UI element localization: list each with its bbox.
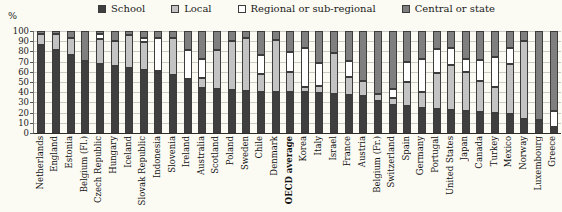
bar-united-states: [447, 31, 455, 133]
y-tick-label-50: 50: [1, 77, 29, 87]
segment-central: [462, 31, 470, 59]
bar-italy: [315, 31, 323, 133]
segment-central: [359, 31, 367, 81]
segment-local: [462, 72, 470, 111]
bar-portugal: [433, 31, 441, 133]
segment-school: [476, 112, 484, 133]
x-label-greece: Greece: [547, 136, 558, 167]
segment-local: [257, 74, 265, 92]
segment-school: [125, 68, 133, 133]
x-label-korea: Korea: [298, 136, 309, 161]
segment-local: [476, 81, 484, 112]
x-label-iceland: Iceland: [123, 136, 134, 168]
bar-australia: [198, 31, 206, 133]
bar-korea: [301, 31, 309, 133]
segment-regional: [315, 63, 323, 86]
segment-school: [184, 79, 192, 133]
x-label-italy: Italy: [313, 136, 324, 155]
bar-slovak-republic: [140, 31, 148, 133]
segment-local: [213, 50, 221, 89]
segment-school: [228, 90, 236, 133]
segment-local: [506, 64, 514, 114]
x-label-hungary: Hungary: [108, 136, 119, 174]
segment-local: [52, 34, 60, 50]
x-label-austria: Austria: [357, 136, 368, 167]
y-tick-label-60: 60: [1, 67, 29, 77]
legend-item-local: Local: [171, 3, 211, 14]
x-label-australia: Australia: [196, 136, 207, 175]
legend-item-central: Central or state: [402, 3, 495, 14]
segment-central: [257, 31, 265, 55]
segment-school: [345, 95, 353, 133]
bar-estonia: [67, 31, 75, 133]
y-tick-label-80: 80: [1, 46, 29, 56]
segment-central: [403, 31, 411, 62]
segment-school: [81, 61, 89, 133]
x-label-estonia: Estonia: [64, 136, 75, 168]
bar-belgium-fr: [374, 31, 382, 133]
bar-hungary: [111, 31, 119, 133]
segment-central: [315, 31, 323, 63]
x-label-canada: Canada: [474, 136, 485, 169]
bar-norway: [520, 31, 528, 133]
segment-school: [37, 45, 45, 133]
x-label-slovenia: Slovenia: [167, 136, 178, 173]
x-label-denmark: Denmark: [269, 136, 280, 176]
segment-local: [389, 98, 397, 105]
x-label-france: France: [342, 136, 353, 166]
segment-central: [198, 31, 206, 59]
segment-central: [433, 31, 441, 49]
segment-school: [67, 55, 75, 133]
segment-regional: [462, 59, 470, 72]
x-label-scotland: Scotland: [210, 136, 221, 174]
segment-regional: [550, 111, 558, 127]
segment-local: [111, 41, 119, 65]
x-label-spain: Spain: [401, 136, 412, 161]
legend-swatch-school: [98, 5, 106, 13]
segment-regional: [403, 62, 411, 82]
x-label-netherlands: Netherlands: [35, 136, 46, 190]
segment-regional: [345, 61, 353, 77]
legend-item-school: School: [98, 3, 145, 14]
bar-netherlands: [37, 31, 45, 133]
x-label-czech-republic: Czech Republic: [93, 136, 104, 203]
plot-area: [33, 31, 561, 134]
bar-spain: [403, 31, 411, 133]
segment-school: [491, 113, 499, 133]
y-tick-label-10: 10: [1, 118, 29, 128]
segment-central: [418, 31, 426, 59]
segment-central: [140, 31, 148, 38]
segment-central: [169, 31, 177, 38]
segment-school: [111, 66, 119, 133]
x-label-belgium-fl: Belgium (Fl.): [79, 136, 90, 192]
x-label-mexico: Mexico: [503, 136, 514, 167]
x-label-indonesia: Indonesia: [152, 136, 163, 178]
x-label-england: England: [49, 136, 60, 172]
bar-czech-republic: [96, 31, 104, 133]
segment-central: [491, 31, 499, 57]
segment-regional: [491, 57, 499, 88]
segment-central: [476, 31, 484, 60]
segment-regional: [418, 59, 426, 93]
bar-luxembourg: [535, 31, 543, 133]
bar-iceland: [125, 31, 133, 133]
segment-school: [96, 64, 104, 133]
x-label-portugal: Portugal: [430, 136, 441, 173]
y-tick-label-40: 40: [1, 87, 29, 97]
x-label-switzerland: Switzerland: [386, 136, 397, 188]
segment-school: [272, 92, 280, 133]
legend-item-regional: Regional or sub-regional: [238, 3, 376, 14]
segment-local: [169, 38, 177, 75]
bar-indonesia: [154, 31, 162, 133]
bar-slovenia: [169, 31, 177, 133]
x-label-united-states: United States: [445, 136, 456, 195]
segment-local: [37, 34, 45, 45]
legend-label-local: Local: [184, 3, 211, 14]
bar-scotland: [213, 31, 221, 133]
segment-local: [272, 40, 280, 92]
segment-regional: [154, 38, 162, 71]
segment-school: [403, 106, 411, 133]
y-tick-label-20: 20: [1, 108, 29, 118]
segment-central: [389, 31, 397, 89]
segment-school: [154, 73, 162, 133]
